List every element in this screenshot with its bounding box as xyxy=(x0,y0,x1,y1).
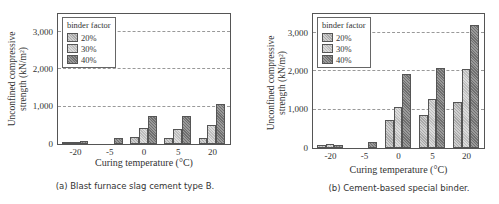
x-tick-label: -5 xyxy=(350,151,380,161)
y-axis-label: Unconfined compressive strength (kN/m²) xyxy=(7,19,29,139)
legend-swatch xyxy=(322,33,333,42)
x-axis-label: Curing temperature (°C) xyxy=(312,164,485,175)
gridline xyxy=(58,106,230,107)
legend-label: 30% xyxy=(336,44,352,54)
x-tick-label: 0 xyxy=(384,151,414,161)
bar-40pct-0 xyxy=(148,116,157,144)
bar-30pct--20 xyxy=(71,142,80,144)
bar-30pct-0 xyxy=(394,107,403,148)
y-tick-label: 0 xyxy=(19,139,53,149)
plot-area: binder factor20%30%40% xyxy=(312,13,485,149)
bar-40pct--20 xyxy=(334,145,343,148)
y-tick-label: 3,000 xyxy=(19,27,53,37)
bar-30pct--20 xyxy=(326,144,335,148)
legend-item: 30% xyxy=(67,43,111,54)
plot-area: binder factor20%30%40% xyxy=(57,13,231,145)
y-tick-label: 1,000 xyxy=(274,104,308,114)
y-tick-label: 1,000 xyxy=(19,101,53,111)
bar-40pct-5 xyxy=(436,68,445,148)
caption: (b) Cement-based special binder. xyxy=(299,183,499,193)
x-tick-label: -5 xyxy=(95,147,125,157)
bar-20pct-20 xyxy=(199,138,208,144)
legend: binder factor20%30%40% xyxy=(62,17,116,68)
y-tick-label: 2,000 xyxy=(274,66,308,76)
bar-40pct-5 xyxy=(182,116,191,144)
legend-swatch xyxy=(322,55,333,64)
bar-40pct--5 xyxy=(368,142,377,148)
x-tick-label: 5 xyxy=(418,151,448,161)
legend: binder factor20%30%40% xyxy=(317,17,371,68)
x-tick-label: -20 xyxy=(61,147,91,157)
y-axis-label-line1: Unconfined compressive xyxy=(7,19,18,139)
bar-20pct-5 xyxy=(419,115,428,148)
legend-item: 30% xyxy=(322,43,366,54)
bar-40pct-0 xyxy=(402,74,411,148)
legend-item: 40% xyxy=(67,54,111,65)
legend-label: 40% xyxy=(336,55,352,65)
x-tick-label: 0 xyxy=(129,147,159,157)
legend-title: binder factor xyxy=(322,20,366,30)
x-tick-label: 20 xyxy=(197,147,227,157)
gridline xyxy=(58,68,230,69)
bar-40pct-20 xyxy=(470,25,479,148)
bar-20pct-0 xyxy=(130,137,139,144)
legend-item: 20% xyxy=(322,32,366,43)
bar-20pct-5 xyxy=(164,138,173,144)
legend-swatch xyxy=(67,44,78,53)
gridline xyxy=(313,70,484,71)
chart-panel-b: Unconfined compressive strength (kN/m²) … xyxy=(249,0,499,204)
bar-40pct--5 xyxy=(114,138,123,144)
y-tick-label: 0 xyxy=(274,143,308,153)
bar-30pct-5 xyxy=(173,129,182,144)
bar-30pct-20 xyxy=(207,125,216,144)
y-axis-label-line2: strength (kN/m²) xyxy=(277,23,288,143)
legend-label: 30% xyxy=(81,44,97,54)
y-axis-label-line1: Unconfined compressive xyxy=(266,23,277,143)
y-axis-label-line2: strength (kN/m²) xyxy=(18,19,29,139)
bar-30pct-5 xyxy=(428,99,437,148)
x-axis-label: Curing temperature (°C) xyxy=(57,157,231,168)
legend-swatch xyxy=(322,44,333,53)
bar-30pct-20 xyxy=(462,69,471,148)
legend-item: 20% xyxy=(67,32,111,43)
bar-30pct-0 xyxy=(139,128,148,144)
y-axis-label: Unconfined compressive strength (kN/m²) xyxy=(266,23,288,143)
legend-title: binder factor xyxy=(67,20,111,30)
legend-swatch xyxy=(67,33,78,42)
legend-swatch xyxy=(67,55,78,64)
bar-40pct--20 xyxy=(80,141,89,144)
x-tick-label: -20 xyxy=(316,151,346,161)
bar-20pct-0 xyxy=(385,120,394,148)
legend-item: 40% xyxy=(322,54,366,65)
bar-20pct--20 xyxy=(317,145,326,148)
caption: (a) Blast furnace slag cement type B. xyxy=(20,181,250,191)
legend-label: 20% xyxy=(81,33,97,43)
bar-40pct-20 xyxy=(216,104,225,144)
x-tick-label: 20 xyxy=(452,151,482,161)
chart-panel-a: Unconfined compressive strength (kN/m²) … xyxy=(0,0,249,204)
bar-20pct-20 xyxy=(453,102,462,148)
x-tick-label: 5 xyxy=(163,147,193,157)
legend-label: 40% xyxy=(81,55,97,65)
legend-label: 20% xyxy=(336,33,352,43)
bar-20pct--20 xyxy=(62,142,71,144)
y-tick-label: 2,000 xyxy=(19,64,53,74)
y-tick-label: 3,000 xyxy=(274,28,308,38)
